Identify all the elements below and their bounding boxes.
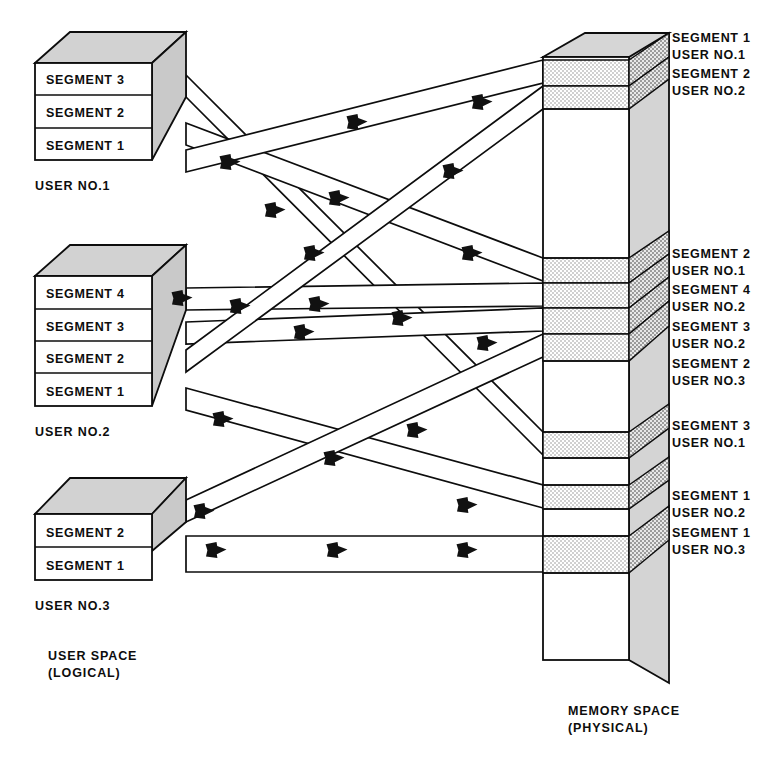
mem-label-9-segment: SEGMENT 1: [672, 526, 751, 540]
memory-band-6: [543, 334, 629, 361]
mem-label-3-segment: SEGMENT 2: [672, 247, 751, 261]
user-space-caption-line2: (LOGICAL): [48, 666, 121, 680]
memory-column-side: [629, 33, 669, 683]
mem-label-4-user: USER NO.2: [672, 300, 746, 314]
ribbon-u3s1: [186, 536, 543, 572]
user-2-label: USER NO.2: [35, 425, 110, 439]
memory-space-caption-line2: (PHYSICAL): [568, 721, 649, 735]
user-3-segment-1-label: SEGMENT 1: [46, 559, 125, 573]
mem-label-2-segment: SEGMENT 2: [672, 67, 751, 81]
mem-label-5-segment: SEGMENT 3: [672, 320, 751, 334]
memory-band-8: [543, 485, 629, 509]
mem-label-8-user: USER NO.2: [672, 506, 746, 520]
mem-label-9-user: USER NO.3: [672, 543, 746, 557]
mem-label-7-segment: SEGMENT 3: [672, 419, 751, 433]
mem-label-4-segment: SEGMENT 4: [672, 283, 751, 297]
user-2-segment-3-label: SEGMENT 1: [46, 385, 125, 399]
user-3-label: USER NO.3: [35, 599, 110, 613]
memory-space-caption-line1: MEMORY SPACE: [568, 704, 680, 718]
memory-band-5: [543, 308, 629, 334]
user-2-segment-1-label: SEGMENT 3: [46, 320, 125, 334]
diagram-canvas: SEGMENT 3 SEGMENT 2 SEGMENT 1 USER NO.1 …: [0, 0, 774, 774]
memory-band-7: [543, 432, 629, 458]
mem-label-6-user: USER NO.3: [672, 374, 746, 388]
user-3-segment-0-label: SEGMENT 2: [46, 526, 125, 540]
user-1-label: USER NO.1: [35, 179, 110, 193]
user-1-segment-0-label: SEGMENT 3: [46, 73, 125, 87]
mem-label-1-segment: SEGMENT 1: [672, 31, 751, 45]
user-2-segment-2-label: SEGMENT 2: [46, 352, 125, 366]
memory-column: [543, 33, 669, 683]
mem-label-6-segment: SEGMENT 2: [672, 357, 751, 371]
mem-label-2-user: USER NO.2: [672, 84, 746, 98]
mem-label-3-user: USER NO.1: [672, 264, 746, 278]
mem-label-7-user: USER NO.1: [672, 436, 746, 450]
mem-label-8-segment: SEGMENT 1: [672, 489, 751, 503]
memory-band-2: [543, 86, 629, 109]
mem-label-5-user: USER NO.2: [672, 337, 746, 351]
user-1-segment-2-label: SEGMENT 1: [46, 139, 125, 153]
memory-band-4: [543, 283, 629, 308]
mem-label-1-user: USER NO.1: [672, 48, 746, 62]
memory-band-9: [543, 536, 629, 573]
user-1-segment-1-label: SEGMENT 2: [46, 106, 125, 120]
memory-band-1: [543, 60, 629, 86]
user-space-caption-line1: USER SPACE: [48, 649, 137, 663]
user-2-segment-0-label: SEGMENT 4: [46, 287, 125, 301]
segmentation-diagram: SEGMENT 3 SEGMENT 2 SEGMENT 1 USER NO.1 …: [0, 0, 774, 774]
memory-band-3: [543, 258, 629, 283]
